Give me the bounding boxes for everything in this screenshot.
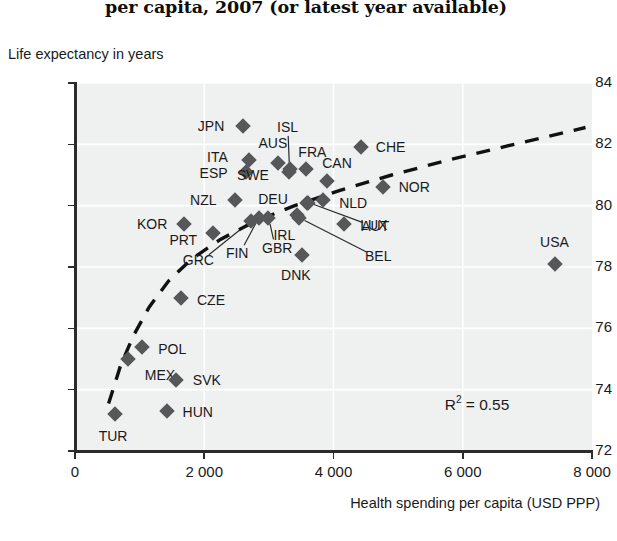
point-label-nzl: NZL <box>190 192 216 208</box>
point-label-svk: SVK <box>193 372 221 388</box>
point-label-che: CHE <box>376 139 406 155</box>
x-tick-mark <box>591 452 593 459</box>
y-axis-title: Life expectancy in years <box>8 46 164 62</box>
point-label-deu: DEU <box>258 191 288 207</box>
point-label-nor: NOR <box>399 179 430 195</box>
x-tick-mark <box>333 452 335 459</box>
point-label-aut: AUT <box>361 218 389 234</box>
y-tick-label: 72 <box>550 441 612 458</box>
x-tick-mark <box>203 452 205 459</box>
y-tick-mark <box>68 266 75 268</box>
point-label-pol: POL <box>158 341 186 357</box>
y-tick-label: 82 <box>550 134 612 151</box>
y-tick-mark <box>68 82 75 84</box>
point-label-can: CAN <box>322 155 352 171</box>
y-tick-label: 80 <box>550 196 612 213</box>
plot-graphics <box>75 83 592 451</box>
point-label-nld: NLD <box>339 195 367 211</box>
r2-value: = 0.55 <box>461 396 509 413</box>
x-tick-label: 4 000 <box>284 463 384 480</box>
chart-title: per capita, 2007 (or latest year availab… <box>0 0 612 17</box>
leader-line-isl <box>288 136 289 163</box>
point-label-grc: GRC <box>183 252 214 268</box>
point-label-isl: ISL <box>277 119 298 135</box>
point-label-dnk: DNK <box>281 267 311 283</box>
x-axis-title: Health spending per capita (USD PPP) <box>0 495 600 511</box>
point-label-fin: FIN <box>226 245 249 261</box>
y-tick-label: 84 <box>550 73 612 90</box>
point-label-cze: CZE <box>197 292 225 308</box>
point-label-ita: ITA <box>207 149 228 165</box>
x-tick-label: 8 000 <box>542 463 617 480</box>
point-label-usa: USA <box>540 234 569 250</box>
y-tick-label: 76 <box>550 318 612 335</box>
y-tick-mark <box>68 328 75 330</box>
y-tick-mark <box>68 144 75 146</box>
point-label-hun: HUN <box>183 404 213 420</box>
point-label-swe: SWE <box>237 167 269 183</box>
plot-area <box>75 83 592 451</box>
point-label-jpn: JPN <box>198 118 224 134</box>
point-label-bel: BEL <box>365 248 391 264</box>
r2-symbol: R <box>445 396 456 413</box>
gridlines <box>75 83 592 451</box>
point-label-aus: AUS <box>259 135 288 151</box>
y-tick-mark <box>68 205 75 207</box>
leader-line-bel <box>305 221 367 252</box>
point-label-tur: TUR <box>99 428 128 444</box>
r-squared-annotation: R2 = 0.55 <box>445 394 510 413</box>
x-tick-mark <box>462 452 464 459</box>
y-tick-label: 74 <box>550 380 612 397</box>
y-tick-mark <box>68 389 75 391</box>
x-tick-label: 6 000 <box>413 463 513 480</box>
x-tick-label: 2 000 <box>154 463 254 480</box>
point-label-gbr: GBR <box>262 240 292 256</box>
point-label-prt: PRT <box>169 232 197 248</box>
x-tick-mark <box>74 452 76 459</box>
point-label-esp: ESP <box>200 165 228 181</box>
x-tick-label: 0 <box>25 463 125 480</box>
point-label-kor: KOR <box>137 216 167 232</box>
